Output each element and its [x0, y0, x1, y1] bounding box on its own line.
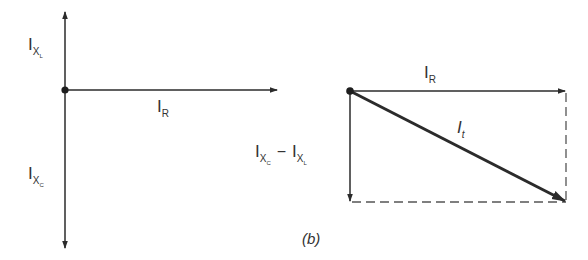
- origin-dot-right: [346, 87, 354, 95]
- label-i-t: It: [457, 119, 465, 136]
- figure-caption: (b): [302, 230, 320, 247]
- label-i-xl: IXL: [28, 36, 43, 53]
- right-phasor-diagram: [346, 87, 566, 202]
- i-t-vector: [350, 91, 565, 201]
- phasor-diagram: [0, 0, 588, 260]
- left-phasor-diagram: [61, 12, 277, 248]
- label-i-xc: IXC: [28, 165, 44, 182]
- origin-dot: [61, 86, 68, 93]
- label-i-r-right: IR: [424, 64, 436, 81]
- label-i-xc-minus-i-xl: IXC−IXL: [255, 143, 307, 160]
- label-i-r-left: IR: [157, 98, 169, 115]
